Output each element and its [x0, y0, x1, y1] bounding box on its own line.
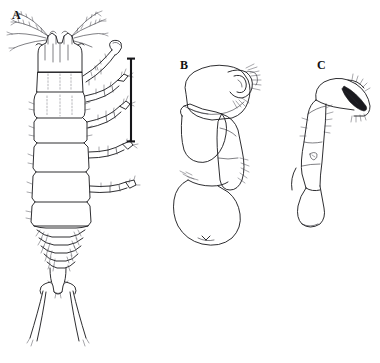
panel-a-label: A: [12, 9, 21, 21]
panel-b-drawing: [168, 50, 280, 260]
pleon-group: [34, 226, 88, 271]
pereon-group: [26, 72, 92, 226]
c-shaft: [300, 100, 333, 188]
right-antenna-group: [72, 11, 108, 47]
panel-c-label: C: [317, 59, 326, 71]
panel-b: B: [168, 50, 280, 260]
panel-b-label: B: [180, 59, 189, 71]
c-chela: [316, 74, 370, 122]
c-basis: [292, 168, 325, 227]
b-propodus: [217, 114, 244, 190]
panel-c-drawing: [296, 50, 380, 250]
panel-c: C: [296, 50, 380, 250]
telson-group: [27, 268, 89, 346]
scale-bar-container: [118, 48, 148, 158]
figure-plate: A: [0, 0, 380, 363]
scale-bar: [118, 48, 148, 158]
b-merus: [180, 104, 226, 162]
